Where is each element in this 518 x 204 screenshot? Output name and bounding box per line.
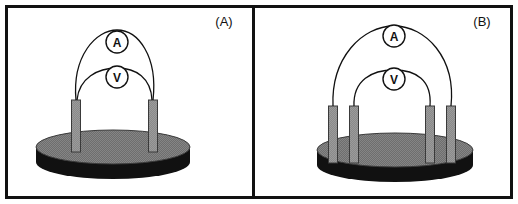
electrode-right (149, 100, 158, 152)
panel-b-label: (B) (473, 14, 490, 29)
ammeter-label-b: A (390, 30, 399, 44)
electrochemical-cell-diagram: A V (A) (0, 0, 518, 204)
electrode-outer-left (329, 106, 338, 163)
electrode-left (72, 100, 81, 152)
disc-a (36, 130, 190, 179)
panel-a-label: (A) (215, 14, 232, 29)
disc-top-a (36, 130, 190, 164)
voltmeter-label-a: V (113, 71, 121, 85)
electrode-inner-right (426, 106, 435, 163)
figure-container: A V (A) (0, 0, 518, 204)
voltmeter-b: V (383, 68, 405, 90)
voltmeter-label-b: V (390, 73, 398, 87)
ammeter-label-a: A (113, 36, 122, 50)
voltmeter-a: V (106, 66, 128, 88)
electrode-inner-left (350, 106, 359, 163)
ammeter-a: A (106, 31, 128, 53)
ammeter-b: A (383, 25, 405, 47)
electrode-outer-right (447, 106, 456, 163)
